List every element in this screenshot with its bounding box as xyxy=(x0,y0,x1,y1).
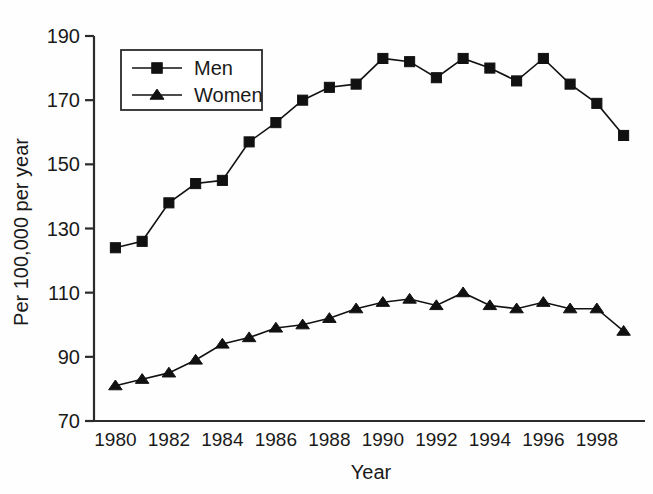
data-point-marker xyxy=(592,98,602,108)
data-point-marker xyxy=(456,287,470,297)
y-tick-label: 170 xyxy=(47,89,80,111)
y-tick-label: 90 xyxy=(58,346,80,368)
data-point-marker xyxy=(242,332,256,342)
data-point-marker xyxy=(137,236,147,246)
y-axis-title: Per 100,000 per year xyxy=(10,138,32,326)
chart-legend: MenWomen xyxy=(121,50,263,110)
data-point-marker xyxy=(271,118,281,128)
series-women xyxy=(109,287,631,390)
y-tick-label: 110 xyxy=(48,282,80,304)
data-point-marker xyxy=(565,79,575,89)
x-tick-label: 1992 xyxy=(415,429,457,450)
data-point-marker xyxy=(191,179,201,189)
y-tick-label: 190 xyxy=(47,25,80,47)
x-tick-label: 1998 xyxy=(576,429,618,450)
data-point-marker xyxy=(323,313,337,323)
y-tick-label: 150 xyxy=(47,153,80,175)
data-point-marker xyxy=(403,293,417,303)
data-point-marker xyxy=(298,95,308,105)
x-tick-label: 1994 xyxy=(469,429,512,450)
line-chart-canvas: 7090110130150170190 19801982198419861988… xyxy=(0,0,653,494)
x-tick-label: 1988 xyxy=(308,429,350,450)
data-point-marker xyxy=(244,137,254,147)
data-point-marker xyxy=(431,73,441,83)
data-point-marker xyxy=(483,300,497,310)
data-point-marker xyxy=(162,367,176,377)
legend-marker-square-icon xyxy=(152,63,163,74)
legend-label: Women xyxy=(194,84,263,106)
x-tick-label: 1996 xyxy=(522,429,564,450)
data-point-marker xyxy=(405,57,415,67)
y-tick-label: 70 xyxy=(58,410,80,432)
chart-figure: 7090110130150170190 19801982198419861988… xyxy=(0,0,653,494)
legend-label: Men xyxy=(194,57,233,79)
data-point-marker xyxy=(512,76,522,86)
x-tick-label: 1980 xyxy=(94,429,136,450)
data-point-marker xyxy=(378,53,388,63)
data-point-marker xyxy=(164,198,174,208)
x-tick-label: 1982 xyxy=(148,429,190,450)
data-point-marker xyxy=(538,53,548,63)
data-point-marker xyxy=(619,130,629,140)
x-tick-label: 1986 xyxy=(255,429,297,450)
y-axis-ticks xyxy=(85,36,94,421)
x-axis-tick-labels: 1980198219841986198819901992199419961998 xyxy=(94,429,618,450)
data-point-marker xyxy=(351,79,361,89)
x-tick-label: 1990 xyxy=(362,429,404,450)
x-axis-title: Year xyxy=(351,461,392,483)
y-tick-label: 130 xyxy=(47,218,80,240)
data-point-marker xyxy=(217,175,227,185)
x-tick-label: 1984 xyxy=(201,429,244,450)
data-point-marker xyxy=(458,53,468,63)
data-point-marker xyxy=(189,354,203,364)
data-point-marker xyxy=(110,243,120,253)
data-point-marker xyxy=(485,63,495,73)
data-point-marker xyxy=(324,82,334,92)
data-point-marker xyxy=(537,297,551,307)
y-axis-tick-labels: 7090110130150170190 xyxy=(47,25,80,432)
